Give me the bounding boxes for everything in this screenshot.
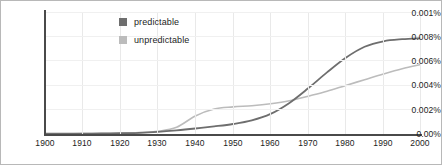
x-axis-line [44,134,422,136]
legend-item-predictable[interactable]: predictable [119,14,189,29]
legend-swatch-icon [119,36,127,44]
legend-item-unpredictable[interactable]: unpredictable [119,32,189,47]
x-axis-label: 1990 [363,138,403,148]
legend-label: predictable [134,17,179,27]
x-axis-label: 1950 [213,138,253,148]
x-axis-label: 1970 [288,138,328,148]
gridline-vertical [308,12,309,134]
plot-area [45,12,421,134]
x-axis-label: 1980 [325,138,365,148]
gridline-vertical [383,12,384,134]
x-axis-label: 1910 [62,138,102,148]
gridline-vertical [195,12,196,134]
gridline-vertical [345,12,346,134]
y-axis-label: 0.004% [401,80,441,90]
gridline-horizontal [45,36,421,37]
y-axis-label: 0.008% [401,32,441,42]
chart-frame: 0.001% 0.008% 0.006% 0.004% 0.002% 0.00%… [0,0,442,165]
gridline-vertical [233,12,234,134]
gridline-vertical [420,12,421,134]
x-axis-label: 1920 [100,138,140,148]
gridline-horizontal [45,60,421,61]
chart-legend: predictable unpredictable [119,14,189,50]
legend-label: unpredictable [134,35,189,45]
gridline-vertical [270,12,271,134]
y-axis-label: 0.002% [401,105,441,115]
gridline-horizontal [45,85,421,86]
y-axis-label: 0.001% [401,8,441,18]
x-axis-label: 1940 [175,138,215,148]
x-axis-label: 1900 [25,138,65,148]
gridline-vertical [82,12,83,134]
gridline-horizontal [45,109,421,110]
x-axis-label: 1930 [137,138,177,148]
y-axis-label: 0.006% [401,56,441,66]
legend-swatch-icon [119,18,127,26]
gridline-horizontal [45,12,421,13]
y-axis-line [44,10,46,136]
x-axis-label: 2000 [400,138,440,148]
x-axis-label: 1960 [250,138,290,148]
